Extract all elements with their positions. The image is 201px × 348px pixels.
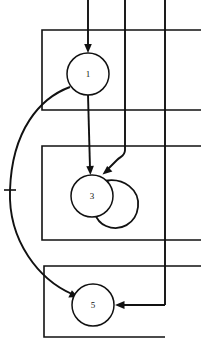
node-5-label: 5 — [91, 300, 96, 310]
box-middle — [42, 146, 201, 240]
box-top — [42, 30, 201, 110]
node-1[interactable]: 1 — [67, 53, 109, 95]
edge-node1-to-node5 — [10, 87, 72, 294]
arrowhead-vline-right-to-node5 — [115, 301, 125, 309]
node-3[interactable]: 3 — [71, 175, 113, 217]
node-3-label: 3 — [90, 191, 95, 201]
node-5[interactable]: 5 — [72, 284, 114, 326]
box-bottom — [44, 266, 201, 337]
arrowhead-entry-to-node-1 — [84, 44, 92, 53]
edge-node1-to-node3 — [88, 95, 90, 168]
edge-vline-mid-to-node3 — [108, 150, 125, 169]
state-transition-diagram: 1 3 5 — [0, 0, 201, 348]
node-1-label: 1 — [86, 69, 91, 79]
arrowhead-node1-to-node3 — [86, 166, 94, 175]
diagram-canvas: 1 3 5 — [0, 0, 201, 348]
